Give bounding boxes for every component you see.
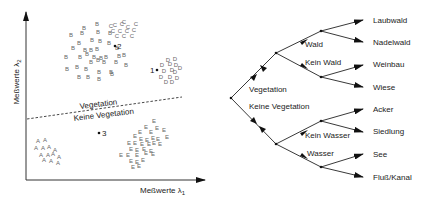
data-point: C [120,21,125,27]
data-point: B [102,59,106,65]
data-point: B [110,71,114,77]
data-point: B [95,46,99,52]
data-point: B [71,45,75,51]
data-point: E [144,150,148,156]
data-point: E [133,140,137,146]
edge-wasser-fluss [321,167,363,177]
branch-label-keine-vegetation: Keine Vegetation [249,102,310,111]
branch-label-wasser: Wasser [307,149,334,158]
data-point: E [147,141,151,147]
edge-kein-wald-wiese [321,77,363,87]
data-point: A [43,137,47,143]
data-point: A [56,160,60,166]
data-point: B [90,37,94,43]
leaf-fluss-kanal: Fluß/Kanal [373,173,412,182]
data-point: E [144,124,148,130]
data-point: A [49,158,53,164]
data-point: B [86,74,90,80]
cluster-d: DDDDDDDDDDDDDD [159,56,183,85]
data-point: B [85,51,89,57]
marker-1: 1 [150,66,158,75]
marker-3: 3 [98,129,107,138]
data-point: B [98,38,102,44]
data-point: E [165,134,169,140]
data-point: B [107,40,111,46]
x-axis-label: Meßwerte λ1 [140,186,186,196]
data-point: B [77,74,81,80]
branch-label-kein-wasser: Kein Wasser [305,131,350,140]
node-wasser [320,166,323,169]
data-point: B [69,32,73,38]
leaf-laubwald: Laubwald [373,16,407,25]
data-point: D [175,75,180,81]
data-point: B [89,59,93,65]
data-point: A [36,138,40,144]
data-point: E [135,152,139,158]
data-point: E [151,151,155,157]
data-point: A [51,151,55,157]
cluster-e: EEEEEEEEEEEEEEEEEEEEEEEEEEEEEEEE [119,118,169,170]
data-point: E [162,127,166,133]
node-root [230,97,233,100]
node-wald [320,30,323,33]
leaf-nadelwald: Nadelwald [373,38,410,47]
data-point: E [137,163,141,169]
data-point: E [155,125,159,131]
data-point: B [89,47,93,53]
data-point: E [152,118,156,124]
data-point: E [119,152,123,158]
data-point: B [77,40,81,46]
tree-labels: Vegetation Keine Vegetation Wald Kein Wa… [249,16,412,182]
data-point: B [95,21,99,27]
edge-wald-laubwald [321,20,363,31]
data-point: A [42,157,46,163]
data-point: B [96,57,100,63]
data-point: B [75,64,79,70]
data-point: A [41,145,45,151]
leaf-siedlung: Siedlung [373,127,404,136]
data-point: B [78,54,82,60]
node-vegetation [275,52,278,55]
branch-label-wald: Wald [305,40,323,49]
data-point: C [130,33,135,39]
diagram-canvas: Meßwerte λ2 Meßwerte λ1 Vegetation Keine… [0,0,426,201]
data-point: B [65,66,69,72]
data-point: B [84,66,88,72]
data-point: C [122,33,127,39]
scatter-plot: Meßwerte λ2 Meßwerte λ1 Vegetation Keine… [12,12,205,196]
data-point: A [47,144,51,150]
data-point: A [34,145,38,151]
data-point: B [64,54,68,60]
leaf-acker: Acker [373,105,394,114]
branch-label-kein-wald: Kein Wald [305,58,341,67]
svg-text:3: 3 [102,129,107,138]
node-kein-wasser [320,120,323,123]
data-point: C [115,33,120,39]
leaf-see: See [373,150,388,159]
data-point: B [97,69,101,75]
point-clusters: AAAAAAAAAAAAABBBBBBBBBBBBBBBBBBBBBBBBBBB… [34,19,183,170]
data-point: E [152,140,156,146]
cluster-c: CCCCCCCCCCCCC [109,19,139,39]
data-point: B [114,59,118,65]
node-keine-vegetation [275,143,278,146]
node-kein-wald [320,76,323,79]
y-axis-label: Meßwerte λ2 [12,59,22,105]
data-point: E [141,157,145,163]
data-point: D [170,79,175,85]
data-point: E [131,164,135,170]
data-point: B [124,62,128,68]
cluster-a: AAAAAAAAAAAAA [34,137,61,166]
svg-text:2: 2 [117,42,122,51]
leaf-wiese: Wiese [373,83,396,92]
data-point: B [122,52,126,58]
data-point: E [138,129,142,135]
data-point: D [164,79,169,85]
branch-label-vegetation: Vegetation [249,85,287,94]
data-point: E [158,141,162,147]
decision-tree [230,20,363,177]
edge-wald-nadelwald [321,31,363,42]
data-point: B [97,76,101,82]
edge-kein-wasser-acker [321,109,363,121]
data-point: B [80,30,84,36]
